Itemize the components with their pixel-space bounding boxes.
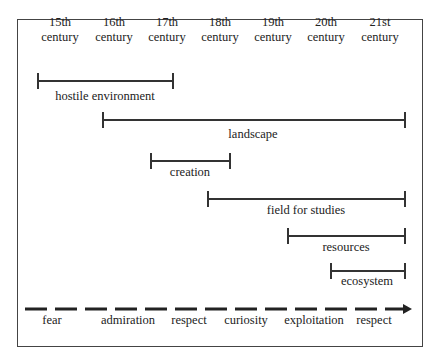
attitude-label: exploitation — [284, 313, 344, 328]
dashed-arrow — [0, 0, 437, 362]
attitude-label: curiosity — [224, 313, 268, 328]
attitude-label: admiration — [101, 313, 155, 328]
attitude-label: respect — [171, 313, 206, 328]
attitude-label: fear — [42, 313, 61, 328]
arrowhead-icon — [403, 304, 412, 314]
attitude-label: respect — [356, 313, 391, 328]
